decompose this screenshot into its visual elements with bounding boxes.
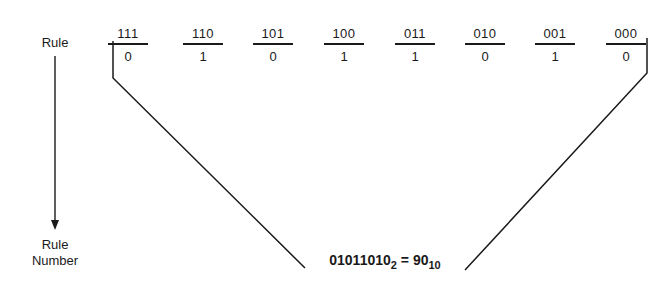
output-bit: 1 [324,49,364,65]
neighborhood-pattern: 110 [183,26,223,45]
output-bit: 0 [253,49,293,65]
neighborhood-pattern: 101 [253,26,293,45]
binary-base: 2 [391,259,397,271]
neighborhood-pattern: 010 [465,26,505,45]
arrow-down-icon [51,220,59,230]
output-bit: 1 [395,49,435,65]
rule-number-label-line2: Number [25,253,85,269]
rule-column-100: 100 1 [324,26,364,65]
output-bit: 1 [183,49,223,65]
binary-value: 01011010 [329,252,391,268]
rule-number-label: Rule Number [25,237,85,269]
rule-column-001: 001 1 [535,26,575,65]
rule-column-110: 110 1 [183,26,223,65]
decimal-base: 10 [428,259,440,271]
rule-column-000: 000 0 [606,26,646,65]
rule-column-010: 010 0 [465,26,505,65]
rule-column-011: 011 1 [395,26,435,65]
neighborhood-pattern: 000 [606,26,646,45]
neighborhood-pattern: 111 [108,26,148,45]
output-bit: 0 [108,49,148,65]
rule-number-formula: 010110102 = 9010 [310,252,460,271]
output-bit: 0 [606,49,646,65]
right-bracket-line [465,38,647,270]
output-bit: 0 [465,49,505,65]
decimal-value: 90 [413,252,429,268]
rule-number-label-line1: Rule [25,237,85,253]
rule-column-111: 111 0 [108,26,148,65]
output-bit: 1 [535,49,575,65]
neighborhood-pattern: 011 [395,26,435,45]
neighborhood-pattern: 100 [324,26,364,45]
rule-column-101: 101 0 [253,26,293,65]
neighborhood-pattern: 001 [535,26,575,45]
left-bracket-line [113,41,305,268]
rule-label: Rule [30,35,80,51]
equals-sign: = [401,252,409,268]
